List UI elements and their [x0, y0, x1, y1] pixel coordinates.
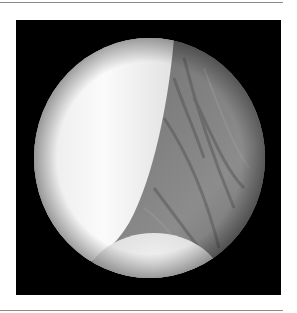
arthroscopic-view: [34, 38, 265, 278]
image-frame: [16, 20, 281, 295]
arthroscopy-image: [34, 38, 265, 278]
bottom-rule: [0, 310, 283, 311]
top-rule: [0, 2, 283, 3]
